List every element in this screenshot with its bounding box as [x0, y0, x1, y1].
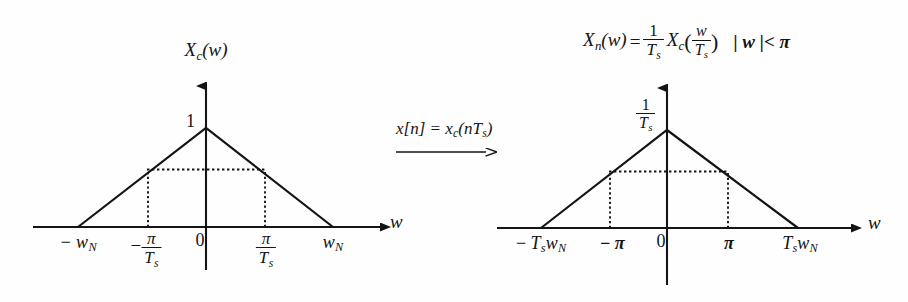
left-neg-frac-denominator: Ts [141, 247, 161, 269]
left-tick-neg-wn-subscript: N [88, 240, 96, 254]
right-peak-denominator: Ts [636, 113, 655, 133]
right-triangle-spectrum [541, 130, 798, 228]
eq-xc: Xc [667, 30, 685, 53]
right-tick-pos-pi: π [724, 234, 734, 252]
left-plot-title: Xc(w) [185, 40, 228, 63]
right-x-axis-label: w [868, 213, 881, 232]
left-tick-pos-wn-subscript: N [335, 240, 343, 254]
right-peak-numerator: 1 [636, 97, 655, 113]
eq-open-paren: ( [684, 31, 691, 53]
left-tick-neg-pi-over-ts: −πTs [131, 230, 162, 269]
left-peak-value: 1 [186, 112, 195, 130]
eq-close-paren: ) [711, 31, 718, 53]
eq-frac2-denominator: Ts [692, 40, 711, 60]
right-plot-group [497, 88, 852, 285]
transform-relation-equation: x[n] = xc(nTs) [396, 120, 492, 140]
right-tick-neg-tswn: − TswN [516, 234, 566, 255]
eq-equals-sign: = [630, 32, 641, 51]
left-neg-frac-numerator: π [141, 230, 161, 247]
eq-frac1-denominator: Ts [643, 39, 663, 61]
left-tick-pos-wn: wN [323, 233, 343, 254]
eq-condition: | w |< π [733, 32, 790, 51]
left-tick-neg-wn: − wN [59, 233, 96, 254]
eq-frac2-numerator: w [692, 23, 711, 39]
left-x-axis-label: w [390, 212, 403, 231]
left-tick-pos-pi-over-ts: πTs [256, 230, 276, 269]
eq-frac1-numerator: 1 [643, 22, 663, 39]
figure-canvas: Xc(w) 1 0 − wN wN −πTs πTs w x[n] = xc(n… [0, 0, 908, 302]
right-plot-equation: Xn(w) = 1 Ts Xc ( w Ts ) | w |< π [583, 22, 790, 61]
eq-w-over-ts: w Ts [692, 23, 711, 59]
right-peak-value: 1Ts [636, 97, 655, 133]
right-tick-neg-pi: − π [599, 234, 624, 252]
eq-lhs: Xn(w) [583, 30, 627, 53]
left-pos-frac-numerator: π [256, 230, 276, 247]
right-tick-pos-tswn: TswN [782, 234, 818, 255]
left-pos-frac-denominator: Ts [256, 247, 276, 269]
left-tick-zero: 0 [196, 231, 205, 249]
right-tick-zero: 0 [657, 232, 666, 250]
eq-one-over-ts: 1 Ts [643, 22, 663, 61]
